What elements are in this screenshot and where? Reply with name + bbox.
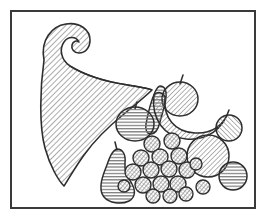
illustration-canvas — [0, 0, 265, 222]
grape-berry — [164, 133, 180, 149]
apple — [162, 82, 198, 116]
grape-berry — [143, 162, 159, 178]
grape-berry — [118, 180, 130, 192]
grape-berry — [179, 187, 193, 201]
grape-berry — [161, 161, 177, 177]
small-round-fruit-right-edge — [196, 180, 210, 194]
grape-berry — [190, 158, 202, 170]
medium-round-fruit-lower-right — [219, 162, 247, 190]
medium-round-fruit-upper-right — [216, 115, 242, 141]
grape-berry — [146, 189, 160, 203]
round-fruit-orange — [116, 107, 154, 141]
grape-berry — [163, 189, 177, 203]
cornucopia-illustration — [0, 0, 265, 222]
